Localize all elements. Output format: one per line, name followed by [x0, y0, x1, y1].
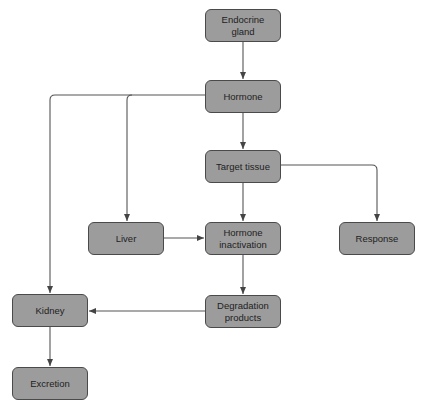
node-hormone-inactivation: Hormone inactivation [205, 222, 281, 255]
node-label: Hormone [223, 91, 262, 103]
node-response: Response [339, 222, 415, 255]
node-target-tissue: Target tissue [205, 150, 281, 183]
node-hormone: Hormone [205, 80, 281, 113]
node-label: Degradation products [209, 300, 277, 324]
node-label: Hormone inactivation [209, 227, 277, 251]
node-label: Target tissue [216, 161, 270, 173]
node-kidney: Kidney [12, 294, 88, 327]
edge-target-response [280, 165, 377, 221]
node-label: Response [356, 233, 399, 245]
node-liver: Liver [88, 222, 164, 255]
edge-hormone-liver [127, 95, 132, 221]
node-label: Kidney [35, 305, 64, 317]
connector-lines [0, 0, 427, 410]
node-label: Excretion [30, 378, 70, 390]
node-degradation-products: Degradation products [205, 295, 281, 328]
node-endocrine-gland: Endocrine gland [205, 9, 281, 42]
node-excretion: Excretion [12, 367, 88, 400]
node-label: Endocrine gland [209, 14, 277, 38]
node-label: Liver [116, 233, 137, 245]
